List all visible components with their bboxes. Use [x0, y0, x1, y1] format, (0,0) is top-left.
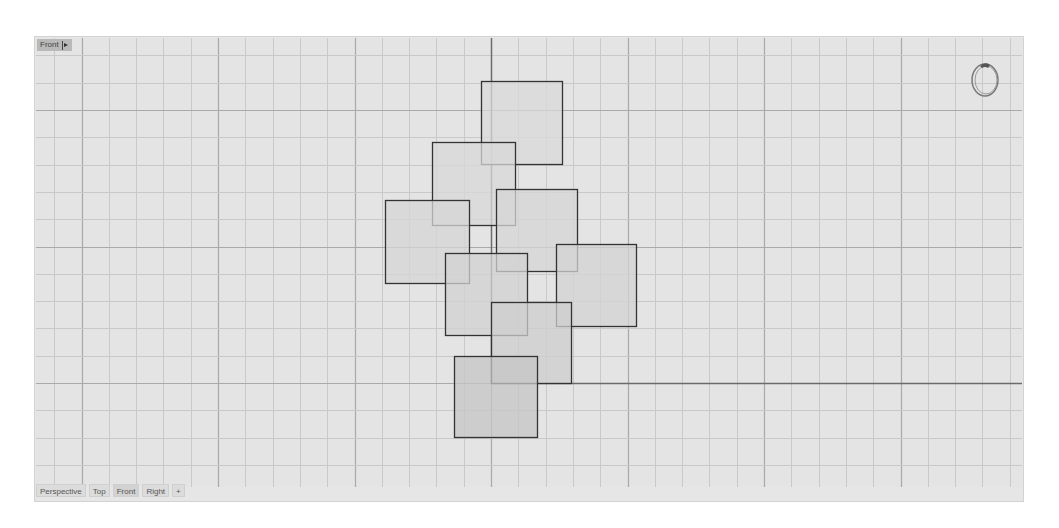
tab-top[interactable]: Top: [89, 484, 110, 497]
tab-right[interactable]: Right: [142, 484, 169, 497]
dropdown-arrow-icon: [62, 41, 69, 50]
tab-perspective[interactable]: Perspective: [36, 484, 86, 497]
viewport-title-button[interactable]: Front: [37, 39, 72, 51]
square-object-sq8[interactable]: [455, 357, 538, 438]
front-viewport[interactable]: [36, 38, 1022, 487]
tab-front[interactable]: Front: [113, 484, 140, 497]
construction-grid: [36, 38, 1022, 487]
add-viewport-tab-button[interactable]: +: [172, 484, 185, 497]
viewport-title: Front: [40, 39, 59, 51]
ring-icon: [966, 58, 1006, 100]
viewport-tabs: Perspective Top Front Right +: [36, 484, 185, 498]
